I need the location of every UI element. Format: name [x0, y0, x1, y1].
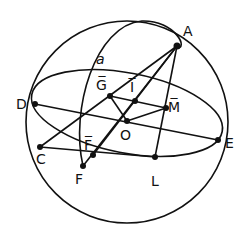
meridian-label-a: a	[96, 51, 105, 67]
label-C: C	[36, 151, 46, 167]
sphere-diagram: ADECFLOG̅I̅M̅F̅ a	[0, 0, 250, 237]
label-A: A	[183, 23, 193, 39]
point-O	[124, 118, 130, 124]
label-E: E	[225, 135, 234, 151]
point-L	[152, 154, 158, 160]
point-G_bar	[107, 93, 113, 99]
point-I_bar	[132, 98, 138, 104]
label-L: L	[151, 173, 159, 189]
point-E	[215, 137, 221, 143]
point-A	[174, 43, 181, 50]
segment-O-M_bar	[127, 108, 166, 121]
point-C	[37, 144, 43, 150]
label-O: O	[120, 127, 131, 143]
label-G_bar: G̅	[96, 76, 107, 93]
construction-lines	[35, 46, 218, 166]
equator-ellipse	[24, 55, 230, 171]
label-M_bar: M̅	[168, 98, 180, 115]
point-F	[80, 163, 86, 169]
point-D	[32, 101, 38, 107]
label-F: F	[75, 171, 83, 187]
label-D: D	[16, 96, 27, 112]
label-F_bar: F̅	[84, 136, 93, 153]
